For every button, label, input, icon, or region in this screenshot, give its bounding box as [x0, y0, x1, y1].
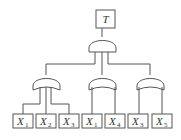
basic-event-subscript: 3: [140, 121, 144, 129]
basic-event-subscript: 3: [71, 121, 75, 129]
top-event-T: T: [96, 10, 115, 28]
basic-event-label: X: [39, 115, 48, 127]
basic-event-label: X: [62, 115, 71, 127]
fault-tree-diagram: T X1X2X3X1X4X3X5: [0, 0, 181, 140]
top-event-label: T: [102, 13, 109, 25]
basic-event-x3: X3: [128, 114, 148, 129]
or-gate-g2: [89, 64, 116, 114]
basic-event-x1: X1: [13, 114, 33, 129]
basic-event-subscript: 1: [25, 121, 29, 129]
basic-event-x4: X4: [105, 114, 125, 129]
basic-event-label: X: [108, 115, 117, 127]
basic-event-subscript: 5: [164, 121, 168, 129]
or-gate-icon: [137, 79, 164, 91]
basic-event-x1: X1: [82, 114, 102, 129]
basic-event-label: X: [85, 115, 94, 127]
basic-event-subscript: 2: [48, 121, 52, 129]
sub-gates: [23, 64, 164, 114]
basic-event-label: X: [131, 115, 140, 127]
or-gate-g1: [23, 64, 95, 114]
basic-event-x5: X5: [152, 114, 172, 129]
basic-event-x3: X3: [59, 114, 79, 129]
and-gate-icon: [89, 41, 116, 53]
and-gate-top: [89, 28, 116, 64]
basic-event-x2: X2: [36, 114, 56, 129]
or-gate-icon: [89, 79, 116, 91]
basic-event-subscript: 1: [94, 121, 98, 129]
basic-event-subscript: 4: [117, 121, 121, 129]
basic-event-label: X: [16, 115, 25, 127]
basic-events: X1X2X3X1X4X3X5: [13, 114, 172, 129]
basic-event-label: X: [155, 115, 164, 127]
